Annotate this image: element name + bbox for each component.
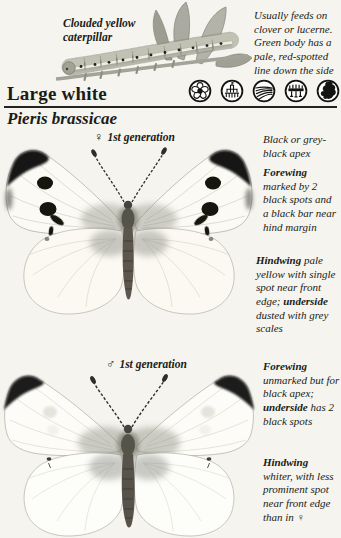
caterpillar-head xyxy=(63,62,75,74)
britain-distribution-map-icon xyxy=(316,79,340,103)
caterpillar-foodplant-note: Usually feeds on clover or lucerne. Gree… xyxy=(254,9,340,77)
male-forewing-note: Forewing unmarked but for black apex; un… xyxy=(263,360,341,428)
species-name: Pieris brassicae xyxy=(7,109,117,129)
page-title: Large white xyxy=(7,83,107,105)
antennae xyxy=(94,381,164,427)
female-hindwing-note: Hindwing pale yellow with single spot ne… xyxy=(256,254,341,336)
fence-icon xyxy=(284,79,308,103)
ploughed-field-icon xyxy=(252,79,276,103)
female-apex-note: Black or grey-black apex xyxy=(263,133,339,160)
caterpillar-illustration xyxy=(48,0,255,84)
building-garden-icon xyxy=(220,79,244,103)
habitat-icons-row xyxy=(188,79,340,103)
section-divider xyxy=(4,106,337,108)
antennae xyxy=(95,154,163,202)
flower-icon xyxy=(188,79,212,103)
male-butterfly-illustration xyxy=(0,367,258,538)
field-guide-page: Clouded yellow caterpillar xyxy=(0,0,341,538)
female-butterfly-illustration xyxy=(0,129,258,360)
female-forewing-note: Forewing marked by 2 black spots and a b… xyxy=(263,166,337,234)
male-hindwing-note: Hindwing whiter, with less prominent spo… xyxy=(263,456,339,524)
